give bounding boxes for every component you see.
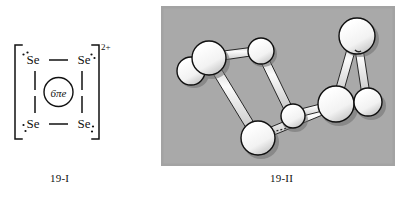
right-bracket-icon (92, 45, 99, 139)
lone-pair-dots-top-right (90, 53, 95, 59)
atom-ball-F (354, 88, 382, 116)
atom-label-se-top-right: Se (78, 52, 91, 67)
atom-ball-G (318, 86, 354, 122)
atom-ball-H (339, 18, 375, 54)
left-bracket-icon (15, 45, 22, 139)
panel-lewis-structure: Se Se Se Se 6πe 2+ (0, 0, 160, 199)
atom-label-se-bottom-left: Se (27, 116, 40, 131)
atom-ball-E (281, 104, 305, 128)
atom-ball-B (192, 41, 226, 75)
panel-model-photograph (161, 6, 395, 166)
atom-ball-C (248, 38, 274, 64)
charge-label: 2+ (101, 42, 111, 52)
lewis-structure-diagram: Se Se Se Se 6πe 2+ (8, 40, 120, 148)
aromatic-electron-label: 6πe (51, 87, 67, 99)
caption-19-I: 19-I (50, 172, 69, 184)
caption-19-II: 19-II (270, 172, 293, 184)
atom-ball-D (241, 121, 275, 155)
atom-label-se-bottom-right: Se (78, 116, 91, 131)
figure-root: Se Se Se Se 6πe 2+ (0, 0, 419, 199)
lone-pair-dots-bottom-right (91, 125, 94, 132)
ball-and-stick-model-diagram (161, 6, 395, 166)
atom-label-se-top-left: Se (27, 52, 40, 67)
